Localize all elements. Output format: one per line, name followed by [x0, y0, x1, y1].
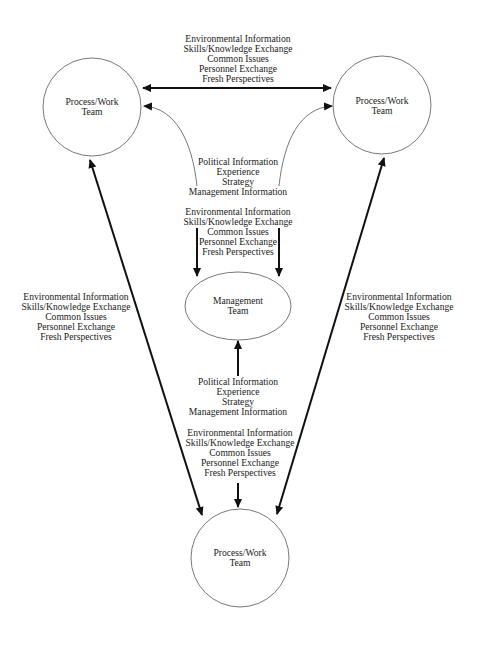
bottom-to-mgmt-info-label: Environmental Information Skills/Knowled… [186, 428, 295, 478]
process-team-top-right-label: Process/Work Team [355, 96, 408, 116]
top-peer-exchange-label: Environmental Information Skills/Knowled… [184, 34, 293, 84]
left-peer-exchange-label: Environmental Information Skills/Knowled… [22, 292, 131, 342]
process-team-top-left-label: Process/Work Team [65, 97, 118, 117]
mgmt-to-top-info-label: Political Information Experience Strateg… [189, 157, 287, 197]
mgmt-to-bottom-info-label: Political Information Experience Strateg… [189, 377, 287, 417]
top-to-mgmt-info-label: Environmental Information Skills/Knowled… [184, 207, 293, 257]
right-peer-exchange-label: Environmental Information Skills/Knowled… [345, 292, 454, 342]
process-team-bottom-label: Process/Work Team [213, 548, 266, 568]
management-team-label: Management Team [213, 296, 263, 316]
